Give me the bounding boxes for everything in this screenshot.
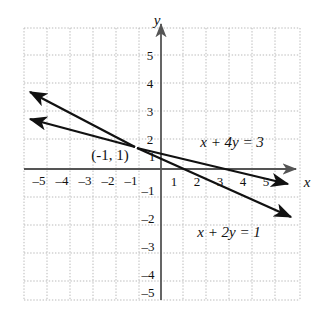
y-tick-label: 3 [147,105,154,118]
y-tick-label: –5 [142,286,155,299]
x-tick-label: 3 [217,175,224,188]
graph-canvas [0,0,322,326]
equation-label-line1: x + 4y = 3 [200,135,264,150]
x-tick-label: –3 [79,174,92,187]
x-tick-label: 2 [194,175,201,188]
y-tick-label: 4 [147,77,154,90]
intersection-point-label: (-1, 1) [91,148,129,163]
x-tick-label: –1 [125,174,138,187]
y-tick-label: –2 [142,212,155,225]
axes [24,24,296,300]
x-tick-label: –4 [56,174,69,187]
x-tick-label: –5 [33,174,46,187]
x-tick-label: –2 [102,174,115,187]
x-tick-label: 1 [171,175,178,188]
y-tick-label: 1 [149,150,156,163]
y-tick-label: 2 [147,133,154,146]
y-axis-label: y [154,13,161,28]
x-axis-label: x [304,175,311,190]
grid-lines [24,28,300,300]
y-tick-label: –4 [142,268,155,281]
coordinate-graph-figure: y x –5 –4 –3 –2 –1 1 2 3 4 5 5 4 3 2 1 –… [0,0,322,326]
y-tick-label: –1 [142,184,155,197]
equation-label-line2: x + 2y = 1 [197,225,261,240]
y-tick-label: 5 [147,49,154,62]
x-tick-label: 5 [263,175,270,188]
y-tick-label: –3 [142,240,155,253]
x-tick-label: 4 [240,175,247,188]
